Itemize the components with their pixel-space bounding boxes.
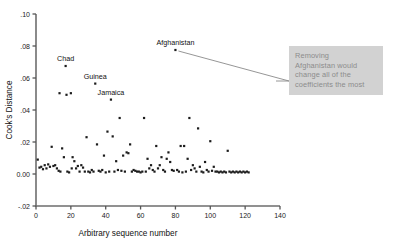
data-point [42,168,44,170]
x-axis-title: Arbitrary sequence number [79,229,178,238]
data-point [45,167,47,169]
data-point [204,161,206,163]
data-point [167,151,169,153]
data-point [194,167,196,169]
data-point [155,145,157,147]
data-point [63,156,65,158]
cooks-distance-scatter-chart: -.020.00.02.04.06.08.1002040608010012014… [0,0,399,244]
data-point [80,164,82,166]
annotation-label-jamaica: Jamaica [98,88,125,97]
data-point [199,166,201,168]
data-point [173,170,175,172]
callout-box: Removing Afghanistan would change all of… [289,46,383,95]
data-point [164,171,166,173]
data-point [73,160,75,162]
data-point [129,143,131,145]
plot-area: -.020.00.02.04.06.08.1002040608010012014… [5,11,289,239]
y-tick-label: .08 [20,43,30,50]
x-tick-label: 20 [67,212,75,219]
data-point [47,163,49,165]
data-point [37,159,39,161]
y-tick-label: .04 [20,107,30,114]
data-point [94,83,96,85]
data-point [148,167,150,169]
data-point [169,161,171,163]
data-point [75,167,77,169]
data-point [153,171,155,173]
annotation-label-chad: Chad [57,54,74,63]
data-point [120,170,122,172]
data-point [187,158,189,160]
data-point [207,171,209,173]
data-point [150,164,152,166]
data-point [71,167,73,169]
data-point [141,171,143,173]
callout-leader-line [178,51,289,81]
x-tick-label: 40 [102,212,110,219]
data-point [213,166,215,168]
y-tick-label: 0.00 [16,171,30,178]
data-point [105,171,107,173]
data-point [82,167,84,169]
data-point [92,171,94,173]
x-tick-label: 120 [239,212,251,219]
data-point [159,164,161,166]
data-point [117,169,119,171]
data-point [72,156,74,158]
data-point [190,169,192,171]
y-tick-label: -.02 [18,203,30,210]
data-point [65,65,67,67]
data-point [78,171,80,173]
data-point [68,171,70,173]
data-point [113,171,115,173]
data-point [40,166,42,168]
data-point [181,171,183,173]
data-point [227,150,229,152]
data-point [124,171,126,173]
data-point [192,164,194,166]
x-tick-label: 80 [172,212,180,219]
data-point [115,160,117,162]
data-point [166,158,168,160]
data-point [188,117,190,119]
data-point [56,167,58,169]
data-point [49,166,51,168]
y-axis-title: Cook's Distance [5,80,14,139]
data-point [51,146,53,148]
annotation-label-guinea: Guinea [84,72,107,81]
data-point [183,145,185,147]
data-point [65,94,67,96]
data-point [89,171,91,173]
data-point [160,156,162,158]
data-point [248,171,250,173]
data-point [84,171,86,173]
data-point [44,164,46,166]
x-tick-label: 100 [204,212,216,219]
x-tick-label: 60 [137,212,145,219]
data-point [61,147,63,149]
data-point [77,165,79,167]
data-point [197,127,199,129]
data-point [209,140,211,142]
x-tick-label: 140 [274,212,286,219]
data-point [185,171,187,173]
data-point [202,171,204,173]
data-point [70,92,72,94]
data-point [119,117,121,119]
x-tick-label: 0 [34,212,38,219]
data-point [157,167,159,169]
data-point [54,164,56,166]
data-point [96,143,98,145]
y-tick-label: .06 [20,75,30,82]
data-point [122,155,124,157]
data-point [103,155,105,157]
y-tick-label: .02 [20,139,30,146]
annotation-label-afghanistan: Afghanistan [156,38,194,47]
data-point [178,171,180,173]
data-point [180,145,182,147]
data-point [143,117,145,119]
data-point [85,136,87,138]
data-point [146,158,148,160]
scatter-plot-figure: -.020.00.02.04.06.08.1002040608010012014… [0,0,399,244]
data-point [110,99,112,101]
